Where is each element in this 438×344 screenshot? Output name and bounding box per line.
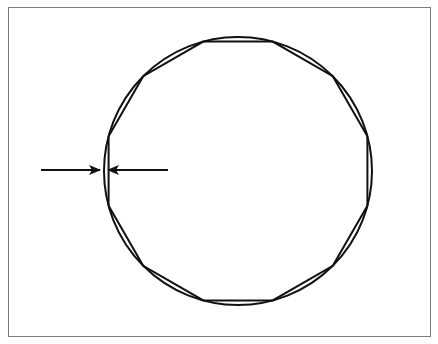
circle-polygon-diagram xyxy=(0,0,438,344)
